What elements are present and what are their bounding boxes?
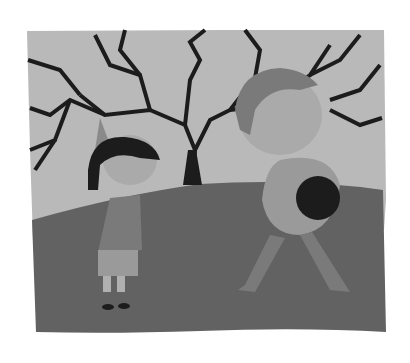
illustration — [0, 0, 410, 363]
